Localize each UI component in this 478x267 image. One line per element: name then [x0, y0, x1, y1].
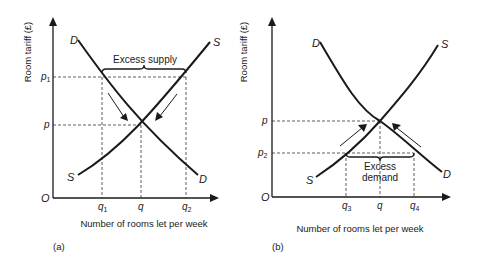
supply-demand-diagram: D S S D Excess supply O p1 p q1 q q2 Num… — [0, 0, 478, 267]
panel-caption-a: (a) — [53, 241, 65, 252]
quantity-tick-q2: q2 — [182, 201, 192, 213]
brace-icon — [102, 65, 186, 73]
y-axis-label: Room tariff (£) — [22, 22, 33, 83]
demand-label-bottom: D — [443, 168, 451, 180]
price-tick-p: p — [261, 115, 268, 126]
demand-label-top: D — [312, 37, 320, 49]
quantity-tick-q: q — [377, 200, 383, 211]
y-axis-arrow-icon — [49, 17, 57, 26]
x-axis-label: Number of rooms let per week — [80, 218, 207, 229]
quantity-tick-q4: q4 — [410, 200, 420, 212]
panel-a: D S S D Excess supply O p1 p q1 q q2 Num… — [22, 17, 221, 252]
supply-label-top: S — [441, 38, 449, 50]
demand-label-bottom: D — [199, 173, 207, 185]
price-tick-p: p — [43, 119, 50, 130]
x-axis-arrow-icon — [442, 193, 451, 201]
quantity-tick-q: q — [138, 201, 144, 212]
price-tick-p1: p1 — [40, 71, 51, 83]
panel-b: D S S D Excess demand O p p2 q3 q q4 Num… — [238, 17, 451, 252]
supply-label-bottom: S — [306, 174, 314, 186]
excess-demand-label-line2: demand — [362, 172, 398, 183]
demand-label-top: D — [70, 34, 78, 46]
origin-label: O — [41, 192, 50, 204]
y-axis-arrow-icon — [268, 17, 276, 26]
demand-curve — [320, 42, 442, 172]
quantity-tick-q3: q3 — [342, 200, 352, 212]
x-axis-arrow-icon — [210, 194, 219, 202]
quantity-tick-q1: q1 — [98, 201, 108, 213]
excess-supply-label: Excess supply — [113, 54, 177, 65]
excess-demand-label-line1: Excess — [364, 161, 396, 172]
supply-label-top: S — [213, 36, 221, 48]
x-axis-label: Number of rooms let per week — [296, 223, 423, 234]
y-axis-label: Room tariff (£) — [238, 22, 249, 83]
supply-label-bottom: S — [67, 171, 75, 183]
guide-lines — [272, 121, 414, 197]
origin-label: O — [261, 191, 270, 203]
price-tick-p2: p2 — [257, 147, 268, 159]
panel-caption-b: (b) — [272, 241, 284, 252]
